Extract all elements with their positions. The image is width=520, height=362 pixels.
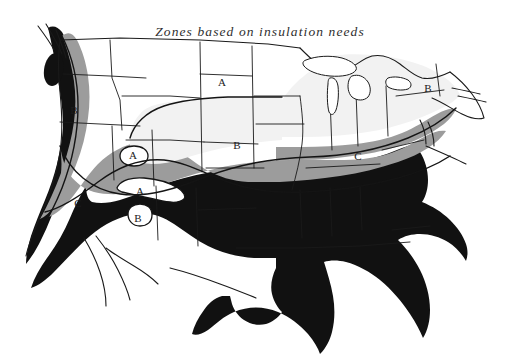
gulf-coast-line (170, 268, 256, 298)
state-line-mt-wy (122, 96, 200, 98)
zone-label-c-california: C (74, 197, 81, 209)
insulation-zone-map-figure: Zones based on insulation needs (0, 0, 520, 362)
northern-border-line (60, 38, 300, 48)
zone-label-c-midatlantic: C (354, 150, 361, 162)
zone-label-b-northwest: B (70, 104, 77, 116)
state-line-id-mt (110, 40, 122, 130)
state-line-dakota-split (200, 74, 252, 76)
zone-label-b-plains: B (233, 139, 240, 151)
zone-label-b-southwest: B (134, 212, 141, 224)
enclave-white-baja-gap (84, 237, 124, 269)
lake-michigan (327, 78, 338, 115)
zone-label-a-sw-enclave: A (136, 185, 144, 197)
us-climate-zone-map: A A A B B B B C C (0, 0, 520, 362)
carolina-coast-detail (426, 146, 466, 164)
zone-label-a-nw-enclave: A (129, 149, 137, 161)
zone-label-b-northeast: B (424, 82, 431, 94)
zone-label-a-dakotas: A (218, 76, 226, 88)
